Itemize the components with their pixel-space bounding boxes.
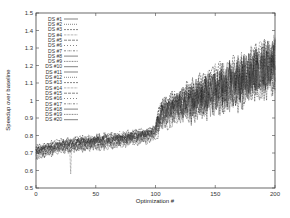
y-tick-label: 1.4 bbox=[25, 28, 34, 34]
x-tick-label: 0 bbox=[34, 191, 38, 197]
y-tick-label: 1.5 bbox=[25, 10, 34, 16]
y-tick-label: 1.2 bbox=[25, 63, 34, 69]
y-tick-label: 1.3 bbox=[25, 45, 34, 51]
y-tick-label: 0.5 bbox=[25, 185, 34, 191]
y-tick-label: 1.1 bbox=[25, 80, 34, 86]
x-tick-label: 50 bbox=[92, 191, 99, 197]
x-tick-label: 100 bbox=[150, 191, 161, 197]
y-tick-label: 0.7 bbox=[25, 150, 34, 156]
y-tick-label: 1 bbox=[30, 98, 34, 104]
x-axis-label: Optimization # bbox=[136, 198, 175, 204]
y-tick-label: 0.6 bbox=[25, 168, 34, 174]
y-axis-label: Speedup over baseline bbox=[5, 69, 11, 131]
x-tick-label: 200 bbox=[270, 191, 281, 197]
speedup-chart: 0.50.60.70.80.911.11.21.31.41.5 05010015… bbox=[0, 0, 290, 218]
y-tick-label: 0.8 bbox=[25, 133, 34, 139]
y-tick-label: 0.9 bbox=[25, 115, 34, 121]
legend: DS #1DS #2DS #3DS #4DS #5DS #6DS #7DS #8… bbox=[40, 15, 80, 123]
legend-label: DS #20 bbox=[45, 116, 62, 122]
x-tick-label: 150 bbox=[210, 191, 221, 197]
